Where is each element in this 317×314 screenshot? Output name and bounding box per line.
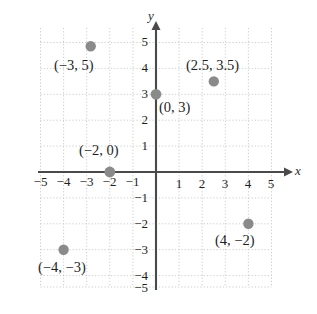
y-tick-label-minus5: −5 bbox=[124, 280, 148, 296]
x-tick-label-4: 4 bbox=[238, 176, 258, 192]
x-tick-label-minus1: −1 bbox=[118, 174, 147, 190]
y-tick-label-4: 4 bbox=[132, 60, 148, 76]
point-label-neg2-0: (−2, 0) bbox=[79, 142, 119, 159]
x-tick-label-1: 1 bbox=[169, 176, 189, 192]
y-tick-label-minus1: −1 bbox=[124, 190, 148, 206]
data-point bbox=[243, 219, 253, 229]
x-axis-label: x bbox=[295, 163, 301, 179]
y-tick-label-5: 5 bbox=[132, 34, 148, 50]
point-label-neg4-neg3: (−4, −3) bbox=[38, 259, 86, 276]
y-tick-label-minus3: −3 bbox=[124, 242, 148, 258]
coordinate-plane-figure: x y −5 −4 −3 −2 −1 1 2 3 4 5 5 4 3 2 1 −… bbox=[0, 0, 317, 314]
x-tick-label-5: 5 bbox=[261, 176, 281, 192]
data-point bbox=[209, 76, 219, 86]
point-label-0-3: (0, 3) bbox=[159, 99, 190, 116]
point-label-2p5-3p5: (2.5, 3.5) bbox=[186, 57, 239, 74]
y-axis-label: y bbox=[148, 8, 154, 24]
y-tick-label-1: 1 bbox=[132, 138, 148, 154]
y-tick-label-2: 2 bbox=[132, 112, 148, 128]
point-label-4-neg2: (4, −2) bbox=[215, 232, 255, 249]
x-tick-label-3: 3 bbox=[215, 176, 235, 192]
point-label-neg3-5: (−3, 5) bbox=[54, 57, 94, 74]
data-point bbox=[86, 41, 96, 51]
data-point bbox=[58, 245, 68, 255]
y-tick-label-3: 3 bbox=[132, 86, 148, 102]
x-tick-label-2: 2 bbox=[192, 176, 212, 192]
y-tick-label-minus2: −2 bbox=[124, 216, 148, 232]
